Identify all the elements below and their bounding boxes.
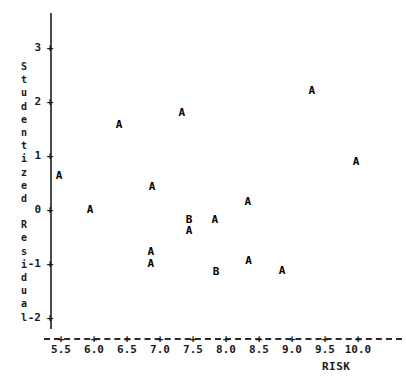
- data-point: A: [147, 246, 154, 257]
- y-axis-title-char: u: [21, 284, 27, 297]
- y-axis-line: [50, 13, 52, 329]
- y-tick-label: -1: [28, 258, 41, 269]
- data-point: A: [245, 255, 252, 266]
- y-axis-title-char: S: [21, 60, 27, 73]
- x-tick-label: 5.5: [51, 344, 71, 355]
- x-tick-mark: +: [322, 333, 329, 344]
- y-axis-title-char: [21, 205, 27, 218]
- y-axis-title-char: R: [21, 218, 27, 231]
- y-tick-mark: +: [47, 204, 54, 215]
- x-tick-mark: +: [289, 333, 296, 344]
- y-tick-mark: +: [47, 42, 54, 53]
- y-axis-title-char: a: [21, 297, 27, 310]
- y-axis-title-char: l: [21, 311, 27, 324]
- x-tick-label: 7.0: [150, 344, 170, 355]
- data-point: A: [56, 169, 63, 180]
- y-axis-title-char: d: [21, 271, 27, 284]
- data-point: A: [116, 118, 123, 129]
- x-tick-mark: +: [190, 333, 197, 344]
- y-axis-title-char: u: [21, 86, 27, 99]
- data-point: A: [87, 204, 94, 215]
- y-tick-label: 1: [34, 150, 41, 161]
- y-tick-mark: +: [47, 312, 54, 323]
- x-tick-label: 10.0: [345, 344, 372, 355]
- y-tick-label: 2: [34, 96, 41, 107]
- y-axis-title-char: i: [21, 152, 27, 165]
- y-tick-label: -2: [28, 312, 41, 323]
- x-tick-mark: +: [256, 333, 263, 344]
- x-axis-title: RISK: [322, 360, 351, 373]
- y-axis-title-char: d: [21, 100, 27, 113]
- x-tick-mark: +: [124, 333, 131, 344]
- y-axis-title-char: t: [21, 139, 27, 152]
- data-point: A: [308, 85, 315, 96]
- y-axis-title: Studentized Residual: [21, 60, 27, 324]
- y-axis-title-char: e: [21, 179, 27, 192]
- x-tick-label: 9.0: [282, 344, 302, 355]
- scatter-plot: Studentized Residual RISK +3+2+1+0+-1+-2…: [0, 0, 406, 380]
- data-point: B: [213, 266, 220, 277]
- y-axis-title-char: i: [21, 258, 27, 271]
- x-tick-label: 6.5: [117, 344, 137, 355]
- data-point: A: [279, 265, 286, 276]
- x-tick-mark: +: [157, 333, 164, 344]
- data-point: A: [178, 106, 185, 117]
- x-tick-label: 6.0: [84, 344, 104, 355]
- y-tick-label: 0: [34, 204, 41, 215]
- x-tick-mark: +: [58, 333, 65, 344]
- data-point: A: [353, 156, 360, 167]
- x-tick-mark: +: [355, 333, 362, 344]
- y-axis-title-char: e: [21, 113, 27, 126]
- x-tick-label: 9.5: [315, 344, 335, 355]
- x-tick-label: 8.5: [249, 344, 269, 355]
- y-tick-mark: +: [47, 96, 54, 107]
- x-tick-label: 8.0: [216, 344, 236, 355]
- data-point: A: [147, 258, 154, 269]
- y-tick-label: 3: [34, 42, 41, 53]
- x-tick-mark: +: [91, 333, 98, 344]
- y-axis-title-char: s: [21, 245, 27, 258]
- y-axis-title-char: d: [21, 192, 27, 205]
- data-point: A: [149, 180, 156, 191]
- data-point: A: [211, 214, 218, 225]
- data-point: A: [244, 195, 251, 206]
- x-tick-mark: +: [223, 333, 230, 344]
- y-axis-title-char: t: [21, 73, 27, 86]
- data-point: A: [186, 224, 193, 235]
- y-axis-title-char: n: [21, 126, 27, 139]
- x-tick-label: 7.5: [183, 344, 203, 355]
- y-tick-mark: +: [47, 150, 54, 161]
- y-axis-title-char: e: [21, 231, 27, 244]
- y-tick-mark: +: [47, 258, 54, 269]
- y-axis-title-char: z: [21, 166, 27, 179]
